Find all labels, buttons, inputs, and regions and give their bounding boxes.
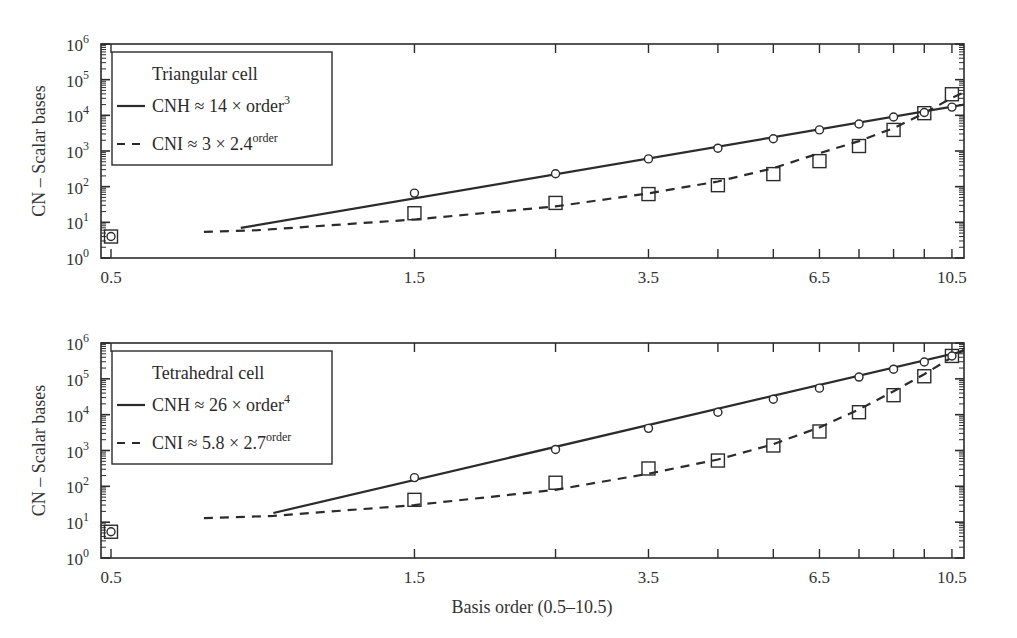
x-tick-label: 10.5	[937, 568, 967, 587]
y-tick-label: 102	[66, 474, 89, 497]
x-tick-label: 6.5	[809, 268, 830, 287]
legend-entry: CNH ≈ 26 × order4	[152, 392, 290, 415]
y-axis-title: CN – Scalar bases	[29, 385, 49, 516]
x-tick-label: 3.5	[638, 268, 659, 287]
legend-title: Triangular cell	[152, 64, 258, 84]
y-tick-label: 103	[66, 139, 89, 162]
y-tick-label: 104	[66, 103, 89, 126]
x-tick-label: 3.5	[638, 568, 659, 587]
cnh-data-point	[920, 109, 928, 117]
cnh-data-point	[769, 135, 777, 143]
y-tick-label: 101	[66, 210, 89, 233]
figure: 1001011021031041051060.51.53.56.510.5CN …	[0, 0, 1017, 638]
cni-data-point	[945, 88, 958, 101]
y-tick-label: 104	[66, 403, 89, 426]
y-tick-label: 105	[66, 68, 89, 91]
cnh-data-point	[644, 424, 652, 432]
cnh-data-point	[948, 352, 956, 360]
cni-data-point	[408, 207, 421, 220]
triangular-cell-plot: 1001011021031041051060.51.53.56.510.5CN …	[29, 32, 967, 287]
x-tick-label: 1.5	[404, 568, 425, 587]
legend-title: Tetrahedral cell	[152, 363, 264, 383]
cnh-data-point	[948, 103, 956, 111]
cnh-data-point	[920, 358, 928, 366]
cnh-data-point	[714, 144, 722, 152]
cnh-data-point	[644, 155, 652, 163]
cni-data-point	[642, 188, 655, 201]
cnh-data-point	[815, 126, 823, 134]
cnh-data-point	[855, 373, 863, 381]
cnh-data-point	[855, 120, 863, 128]
y-tick-label: 106	[66, 32, 89, 55]
x-tick-label: 0.5	[100, 268, 121, 287]
cni-data-point	[813, 155, 826, 168]
x-tick-label: 10.5	[937, 268, 967, 287]
cni-data-point	[549, 476, 562, 489]
cnh-data-point	[107, 528, 115, 536]
y-tick-label: 105	[66, 367, 89, 390]
cnh-data-point	[769, 395, 777, 403]
cnh-data-point	[410, 474, 418, 482]
cni-data-point	[767, 168, 780, 181]
legend: Tetrahedral cellCNH ≈ 26 × order4CNI ≈ 5…	[112, 351, 332, 464]
cni-data-point	[767, 439, 780, 452]
cnh-data-point	[890, 113, 898, 121]
y-tick-label: 106	[66, 331, 89, 354]
cnh-data-point	[552, 445, 560, 453]
tetrahedral-cell-plot: 1001011021031041051060.51.53.56.510.5CN …	[29, 331, 967, 587]
cnh-data-point	[815, 384, 823, 392]
y-tick-label: 101	[66, 510, 89, 533]
y-tick-label: 100	[66, 546, 89, 569]
cnh-data-point	[714, 408, 722, 416]
cnh-data-point	[552, 170, 560, 178]
legend-entry: CNH ≈ 14 × order3	[152, 93, 290, 116]
y-tick-label: 102	[66, 175, 89, 198]
cnh-data-point	[410, 189, 418, 197]
cnh-data-point	[890, 365, 898, 373]
cnh-data-point	[107, 233, 115, 241]
y-tick-label: 103	[66, 439, 89, 462]
y-tick-label: 100	[66, 246, 89, 269]
y-axis-title: CN – Scalar bases	[29, 85, 49, 216]
x-tick-label: 1.5	[404, 268, 425, 287]
x-tick-label: 0.5	[100, 568, 121, 587]
x-axis-title: Basis order (0.5–10.5)	[452, 597, 613, 618]
x-tick-label: 6.5	[809, 568, 830, 587]
legend: Triangular cellCNH ≈ 14 × order3CNI ≈ 3 …	[112, 52, 332, 165]
